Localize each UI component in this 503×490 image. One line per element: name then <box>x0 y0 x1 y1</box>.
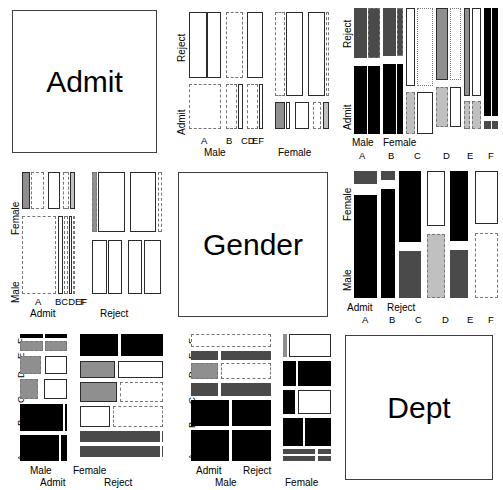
axis-label-female: Female <box>10 202 21 235</box>
tile <box>450 8 461 80</box>
tick-f: F <box>80 296 86 307</box>
axis-label-reject: Reject <box>104 477 132 488</box>
tile <box>226 84 237 129</box>
tile <box>238 84 243 129</box>
tile <box>354 66 367 134</box>
tile <box>383 8 396 56</box>
tick-d: D <box>443 150 450 161</box>
tile <box>130 172 156 232</box>
axis-label-admit: Admit <box>196 465 222 476</box>
tile <box>128 240 142 294</box>
mosaic-panel-3-1: F E D C B A <box>0 326 168 490</box>
tile <box>484 121 491 129</box>
tile <box>20 334 43 338</box>
axis-label-reject: Reject <box>243 465 271 476</box>
diagonal-label-admit: Admit <box>46 65 123 99</box>
tile <box>58 216 63 294</box>
tile <box>381 189 395 298</box>
tile <box>381 171 395 180</box>
tile <box>308 12 325 96</box>
tick-c: C <box>415 314 422 325</box>
tile <box>20 435 59 461</box>
tile <box>232 400 271 426</box>
tile <box>191 430 229 461</box>
diagonal-panel-admit: Admit <box>12 10 157 153</box>
tile <box>80 334 118 356</box>
tile <box>144 240 161 294</box>
tile <box>69 216 72 294</box>
tile <box>323 102 329 129</box>
tile <box>275 12 285 96</box>
mosaic-panel-3-2: F E D C B A <box>168 326 336 490</box>
tile <box>475 233 498 298</box>
axis-label-admit: Admit <box>176 109 187 135</box>
tile <box>221 383 271 396</box>
tile <box>298 361 331 386</box>
axis-label-female: Female <box>342 188 353 221</box>
axis-label-admit: Admit <box>40 477 66 488</box>
tile <box>221 351 271 360</box>
tile <box>61 435 67 461</box>
tile <box>22 216 56 294</box>
tile <box>247 84 258 129</box>
tile <box>472 101 481 129</box>
diagonal-label-dept: Dept <box>387 391 450 425</box>
diagonal-label-gender: Gender <box>203 228 303 262</box>
tile <box>397 64 403 134</box>
tile <box>48 172 60 209</box>
tile <box>436 8 448 80</box>
tile <box>98 172 125 232</box>
mosaic-tiles-2-1 <box>22 172 162 294</box>
axis-label-male: Male <box>204 147 226 158</box>
tile <box>406 92 415 134</box>
tile <box>354 8 367 58</box>
tile <box>286 102 290 129</box>
tile <box>326 12 329 96</box>
mosaic-tiles-2-3 <box>354 171 498 298</box>
axis-label-male: Male <box>30 465 52 476</box>
mosaic-pairs-matrix: Admit Reject Admit <box>0 0 503 490</box>
tile <box>295 102 309 129</box>
tile <box>70 172 75 209</box>
tile <box>118 361 163 378</box>
tile <box>80 361 115 378</box>
tile <box>283 390 295 414</box>
tile <box>417 92 433 134</box>
diagonal-panel-gender: Gender <box>178 172 328 317</box>
tile <box>20 341 43 351</box>
mosaic-tiles-1-3 <box>354 8 498 134</box>
tile <box>464 8 470 96</box>
axis-label-female: Female <box>285 477 318 488</box>
tile <box>80 382 117 402</box>
axis-label-female: Female <box>278 147 311 158</box>
tile <box>191 383 218 396</box>
tile <box>289 334 331 357</box>
tick-f: F <box>488 314 494 325</box>
axis-label-male: Male <box>10 281 21 303</box>
tile <box>354 195 377 298</box>
axis-label-admit: Admit <box>342 104 353 130</box>
tile <box>113 406 163 427</box>
axis-label-reject: Reject <box>387 302 415 313</box>
tick-a: A <box>359 150 365 161</box>
diagonal-panel-dept: Dept <box>345 335 493 480</box>
tile <box>283 361 296 386</box>
tile <box>492 121 498 129</box>
tile <box>73 216 75 294</box>
tile <box>80 446 160 457</box>
tile <box>22 172 30 209</box>
tile <box>492 8 498 116</box>
axis-label-reject: Reject <box>342 20 353 48</box>
tick-b: B <box>226 135 232 146</box>
axis-label-female: Female <box>383 137 416 148</box>
tile <box>80 431 160 442</box>
tile <box>63 172 69 209</box>
tile <box>275 102 285 129</box>
mosaic-panel-1-3: Reject Admit <box>336 0 503 163</box>
axis-label-reject: Reject <box>100 308 128 319</box>
tile <box>450 250 468 298</box>
mosaic-panel-2-3: Female Male Admit Reject A B C D <box>336 163 503 326</box>
tile <box>44 379 67 399</box>
tile <box>298 390 331 414</box>
axis-label-admit: Admit <box>347 302 373 313</box>
